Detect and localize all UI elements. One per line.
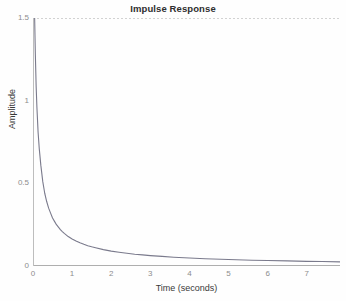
- y-tick-label: 0.5: [5, 179, 29, 187]
- x-tick-label: 1: [70, 270, 74, 278]
- y-axis-title: Amplitude: [7, 69, 17, 149]
- y-tick-label: 1.5: [5, 14, 29, 22]
- x-tick-label: 2: [109, 270, 113, 278]
- chart-title: Impulse Response: [0, 3, 346, 14]
- x-tick-label: 6: [265, 270, 269, 278]
- impulse-response-curve: [35, 18, 340, 262]
- x-tick-label: 4: [187, 270, 191, 278]
- x-tick-label: 0: [31, 270, 35, 278]
- plot-area: 01234567 00.511.5: [33, 18, 340, 266]
- x-tick-label: 7: [305, 270, 309, 278]
- x-tick-label: 3: [148, 270, 152, 278]
- y-tick-label: 0: [5, 262, 29, 270]
- impulse-response-figure: Impulse Response 01234567 00.511.5 Time …: [0, 0, 346, 301]
- plot-canvas: [33, 18, 340, 266]
- x-axis-title: Time (seconds): [33, 283, 340, 293]
- x-tick-label: 5: [226, 270, 230, 278]
